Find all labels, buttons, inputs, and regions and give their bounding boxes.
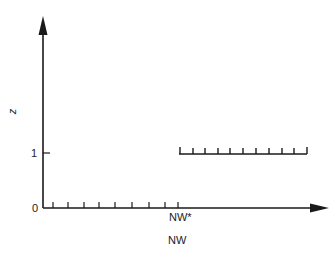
step-function-diagram: [0, 0, 336, 253]
upper-segment: [179, 147, 307, 154]
x-axis-arrow-icon: [310, 204, 329, 213]
x-axis-label: NW: [168, 235, 186, 246]
y-axis-label: z: [7, 109, 18, 115]
x-marker-label: NW*: [169, 212, 192, 223]
lower-segment-ticks: [53, 202, 178, 208]
y-axis-arrow-icon: [39, 16, 48, 35]
y-tick-label-1: 1: [31, 148, 37, 159]
y-tick-label-0: 0: [32, 203, 38, 214]
